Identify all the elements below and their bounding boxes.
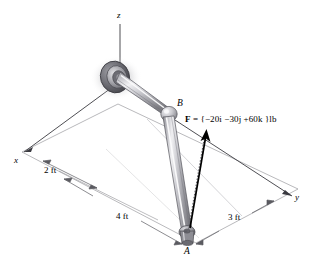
force-vector-arrow xyxy=(190,129,211,228)
axis-label-x: x xyxy=(14,155,18,165)
rod-lower xyxy=(163,116,192,233)
dimension-label-3ft: 3 ft xyxy=(228,212,240,222)
collar-at-a xyxy=(179,226,195,246)
dimension-label-2ft: 2 ft xyxy=(44,165,56,175)
point-label-a: A xyxy=(184,246,190,256)
dimension-label-4ft: 4 ft xyxy=(116,211,128,221)
axis-label-y: y xyxy=(295,192,299,202)
force-cord xyxy=(188,134,205,232)
figure-canvas xyxy=(0,0,316,266)
force-vector-label: F = {−20i −30j +60k }lb xyxy=(185,114,277,124)
force-value: {−20i −30j +60k }lb xyxy=(201,114,277,124)
point-label-b: B xyxy=(177,98,183,108)
statics-figure: z x y B A 2 ft 4 ft 3 ft F = {−20i −30j … xyxy=(0,0,316,266)
axis-label-z: z xyxy=(117,10,121,20)
